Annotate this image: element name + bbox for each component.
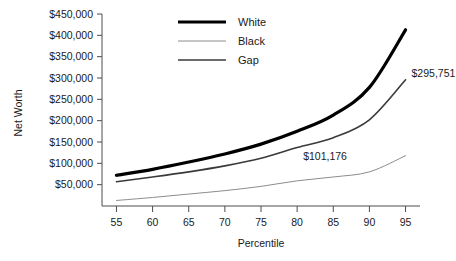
data-label-295751: $295,751: [412, 67, 456, 79]
x-axis-title: Percentile: [238, 237, 285, 249]
y-axis-group: $50,000$100,000$150,000$200,000$250,000$…: [49, 8, 102, 206]
x-tick-label: 55: [111, 216, 123, 228]
y-tick-label: $50,000: [55, 178, 93, 190]
y-tick-label: $250,000: [49, 93, 93, 105]
series-line-black: [116, 156, 405, 201]
y-tick-label: $350,000: [49, 50, 93, 62]
legend-label-white: White: [238, 16, 266, 28]
x-tick-label: 85: [327, 216, 339, 228]
y-tick-label: $300,000: [49, 72, 93, 84]
x-tick-label: 80: [291, 216, 303, 228]
legend-label-gap: Gap: [238, 54, 259, 66]
y-axis-title: Net Worth: [12, 89, 24, 136]
legend-label-black: Black: [238, 35, 265, 47]
y-tick-label: $400,000: [49, 29, 93, 41]
x-tick-label: 60: [147, 216, 159, 228]
series-line-white: [116, 30, 405, 175]
x-axis-group: 556065707580859095: [102, 206, 420, 228]
y-tick-label: $200,000: [49, 114, 93, 126]
y-axis-tick-labels: $50,000$100,000$150,000$200,000$250,000$…: [49, 8, 93, 191]
y-tick-label: $150,000: [49, 136, 93, 148]
data-annotations: $295,751$101,176: [303, 67, 455, 162]
x-tick-label: 90: [364, 216, 376, 228]
x-axis-ticks: [116, 206, 405, 212]
y-tick-label: $450,000: [49, 8, 93, 20]
y-tick-label: $100,000: [49, 157, 93, 169]
x-tick-label: 70: [219, 216, 231, 228]
x-tick-label: 75: [255, 216, 267, 228]
y-axis-ticks: [97, 14, 102, 185]
x-axis-tick-labels: 556065707580859095: [111, 216, 412, 228]
net-worth-percentile-chart: $50,000$100,000$150,000$200,000$250,000$…: [0, 0, 456, 261]
chart-plot-area: $50,000$100,000$150,000$200,000$250,000$…: [0, 0, 456, 261]
data-label-101176: $101,176: [303, 150, 347, 162]
x-tick-label: 65: [183, 216, 195, 228]
x-tick-label: 95: [400, 216, 412, 228]
data-series-group: [116, 30, 405, 201]
chart-legend: WhiteBlackGap: [178, 16, 266, 66]
